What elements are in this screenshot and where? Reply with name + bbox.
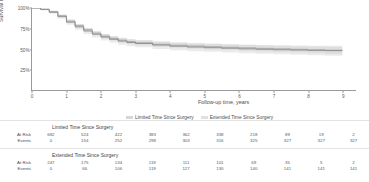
confidence-band-1 [32, 8, 342, 56]
x-tick-label: 5 [204, 94, 207, 99]
y-tick-mark [30, 8, 32, 9]
x-tick-label: 3 [134, 94, 137, 99]
risk-cell: 66 [68, 165, 102, 171]
y-tick-mark [30, 28, 32, 29]
risk-cell: 154 [68, 137, 102, 143]
y-tick-label: 100% [18, 6, 30, 11]
risk-cell: 130 [203, 165, 237, 171]
risk-cell: 141 [271, 165, 305, 171]
risk-cell: 316 [203, 137, 237, 143]
risk-cell: 0 [34, 137, 68, 143]
risk-cell: 141 [304, 165, 338, 171]
y-tick-mark [30, 49, 32, 50]
x-axis-label: Follow-up time, years [198, 99, 249, 105]
risk-cell: 252 [102, 137, 136, 143]
x-tick-mark [135, 90, 136, 93]
x-tick-label: 8 [307, 94, 310, 99]
risk-cell: 0 [34, 165, 68, 171]
risk-cell: 327 [304, 137, 338, 143]
risk-cell: 298 [135, 137, 169, 143]
x-tick-mark [274, 90, 275, 93]
x-tick-mark [66, 90, 67, 93]
y-tick-label: 50% [20, 47, 29, 52]
x-tick-mark [239, 90, 240, 93]
risk-cell: 327 [271, 137, 305, 143]
y-tick-label: 25% [20, 68, 29, 73]
x-tick-label: 7 [273, 94, 276, 99]
risk-table-divider [0, 120, 369, 121]
survival-curves [32, 8, 356, 90]
x-tick-label: 4 [169, 94, 172, 99]
risk-cell: 127 [169, 165, 203, 171]
risk-table: At Risk247175134119111101693552Events066… [0, 159, 369, 171]
x-tick-mark [308, 90, 309, 93]
x-tick-mark [101, 90, 102, 93]
table-row: Events066106119127130140141141141 [0, 165, 369, 171]
plot-panel: 25%50%75%100% 0123456789 [31, 8, 356, 91]
risk-row-label: Events [0, 137, 34, 143]
y-tick-mark [30, 70, 32, 71]
risk-cell: 119 [135, 165, 169, 171]
table-row: Events0154252298303316325327327327 [0, 137, 369, 143]
x-tick-mark [170, 90, 171, 93]
risk-cell: 303 [169, 137, 203, 143]
x-tick-mark [204, 90, 205, 93]
risk-cell: 327 [338, 137, 369, 143]
risk-table: At Risk68252442238336233821889192Events0… [0, 131, 369, 143]
y-axis-label: Survival Probability [0, 0, 4, 22]
risk-table-title: Extended Time Since Surgery [52, 152, 118, 158]
x-tick-label: 2 [100, 94, 103, 99]
x-tick-mark [343, 90, 344, 93]
survival-figure: 25%50%75%100% 0123456789 Survival Probab… [0, 0, 369, 182]
risk-row-label: Events [0, 165, 34, 171]
risk-table-divider [0, 148, 369, 149]
risk-cell: 140 [237, 165, 271, 171]
risk-cell: 106 [102, 165, 136, 171]
legend-swatch-icon [126, 116, 133, 120]
x-tick-label: 6 [238, 94, 241, 99]
legend-swatch-icon [201, 116, 208, 120]
x-tick-label: 0 [31, 94, 34, 99]
y-tick-label: 75% [20, 26, 29, 31]
risk-cell: 141 [338, 165, 369, 171]
x-tick-label: 1 [65, 94, 68, 99]
risk-cell: 325 [237, 137, 271, 143]
x-tick-label: 9 [342, 94, 345, 99]
x-tick-mark [32, 90, 33, 93]
risk-table-title: Limited Time Since Surgery [52, 124, 113, 130]
